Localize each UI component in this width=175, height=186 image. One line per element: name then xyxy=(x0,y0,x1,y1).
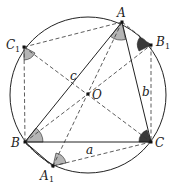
angle-mark-C1 xyxy=(24,47,35,60)
side-label-c: c xyxy=(70,69,77,83)
angle-mark-B1 xyxy=(137,37,151,51)
point-A1 xyxy=(52,165,55,168)
label-B1-sub: 1 xyxy=(165,42,170,51)
segment-B-A1 xyxy=(25,142,53,166)
dashed-C1-B xyxy=(24,47,25,142)
label-A1-sub: 1 xyxy=(49,175,54,184)
dashed-A1-C xyxy=(53,142,151,166)
label-C1: C xyxy=(6,38,15,52)
side-label-b: b xyxy=(142,85,150,99)
point-B1 xyxy=(150,44,153,47)
point-O xyxy=(87,93,90,96)
label-A1: A xyxy=(39,169,49,183)
label-A: A xyxy=(116,6,126,20)
label-B1: B xyxy=(155,35,165,49)
point-A xyxy=(121,21,124,24)
label-C1-sub: 1 xyxy=(15,45,20,54)
geometry-diagram: A B C O A 1 B 1 C 1 a b c xyxy=(0,0,175,186)
side-b-AC xyxy=(122,22,151,142)
label-C: C xyxy=(155,136,164,150)
label-O: O xyxy=(92,88,102,102)
label-B: B xyxy=(10,136,20,150)
point-B xyxy=(24,141,27,144)
side-label-a: a xyxy=(86,143,93,157)
point-C1 xyxy=(23,46,26,49)
point-C xyxy=(150,141,153,144)
